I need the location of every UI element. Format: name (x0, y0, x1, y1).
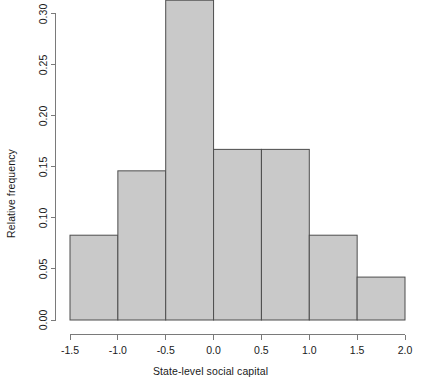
y-tick-label: 0.10 (36, 203, 50, 233)
histogram-bar (70, 235, 118, 320)
x-tick-label: 2.0 (385, 344, 421, 356)
histogram-bar (309, 235, 357, 320)
y-axis-title: Relative frequency (0, 0, 22, 387)
y-tick-label: 0.15 (36, 152, 50, 182)
x-tick-label: 0.0 (194, 344, 234, 356)
y-tick-label: 0.20 (36, 101, 50, 131)
x-tick-label: -1.0 (98, 344, 138, 356)
x-tick-label: -1.5 (50, 344, 90, 356)
y-tick-label: 0.30 (36, 0, 50, 29)
histogram-figure: Relative frequency 0.000.050.100.150.200… (0, 0, 421, 387)
histogram-bar (118, 171, 166, 320)
chart-canvas (0, 0, 421, 387)
histogram-bar (357, 277, 405, 320)
histogram-bar (214, 149, 262, 320)
bars-layer (70, 0, 405, 320)
x-axis-title: State-level social capital (0, 365, 421, 377)
x-tick-label: -0.5 (146, 344, 186, 356)
x-tick-label: 1.5 (337, 344, 377, 356)
plot-area: Relative frequency 0.000.050.100.150.200… (0, 0, 421, 387)
y-tick-label: 0.00 (36, 305, 50, 335)
histogram-bar (166, 0, 214, 320)
y-tick-label: 0.25 (36, 50, 50, 80)
x-tick-label: 1.0 (289, 344, 329, 356)
x-tick-label: 0.5 (241, 344, 281, 356)
y-tick-label: 0.05 (36, 254, 50, 284)
histogram-bar (261, 149, 309, 320)
